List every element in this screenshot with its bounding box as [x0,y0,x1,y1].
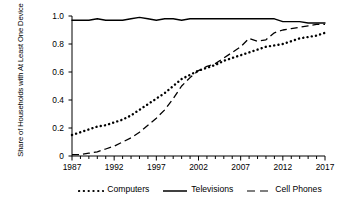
legend-swatch-computers [78,186,104,193]
series-line-cell-phones [72,24,325,154]
x-tick-label: 2017 [308,163,339,172]
series-line-televisions [72,17,325,23]
legend-label-cell-phones: Cell Phones [275,184,321,194]
legend-swatch-cell-phones [246,186,272,193]
x-tick-label: 2007 [224,163,258,172]
legend-item-televisions: Televisions [162,184,233,194]
legend-item-cell-phones: Cell Phones [246,184,321,194]
legend-swatch-televisions [162,186,188,193]
legend-item-computers: Computers [78,184,149,194]
y-tick-label: 0.2 [42,124,64,133]
x-tick-label: 1992 [97,163,131,172]
series-line-computers [72,33,325,135]
x-tick-label: 1997 [139,163,173,172]
y-tick-label: 0.6 [42,68,64,77]
y-tick-label: 0 [42,152,64,161]
x-tick-label: 2002 [182,163,216,172]
x-tick-label: 2012 [266,163,300,172]
y-tick-label: 1.0 [42,12,64,21]
legend-label-computers: Computers [107,184,149,194]
x-tick-label: 1987 [55,163,89,172]
chart-legend: Computers Televisions Cell Phones [66,181,334,197]
y-tick-label: 0.4 [42,96,64,105]
legend-label-televisions: Televisions [191,184,233,194]
y-tick-label: 0.8 [42,40,64,49]
chart-figure: Share of Households with At Least One De… [0,0,339,201]
